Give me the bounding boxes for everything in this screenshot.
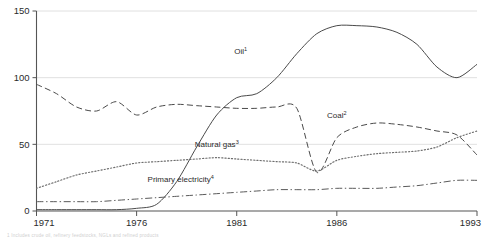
chart-footnote: 1 Includes crude oil, refinery feedstock… [7, 233, 159, 238]
series-label-coal: Coal2 [327, 110, 347, 120]
series-label-primary-electricity: Primary electricity4 [148, 174, 214, 184]
x-axis-labels: 19711976198119861993 [34, 217, 482, 228]
series-annotations: Oil1Coal2Natural gas3Primary electricity… [148, 46, 347, 184]
y-tick-label: 150 [14, 5, 30, 16]
chart-container: 050100150 19711976198119861993 Oil1Coal2… [0, 0, 484, 238]
x-tick-label: 1986 [326, 217, 347, 228]
series-label-footnote-marker: 4 [211, 174, 214, 180]
series-lines [37, 25, 478, 210]
series-label-oil: Oil1 [234, 46, 247, 56]
series-line-coal [37, 84, 478, 172]
series-line-natural-gas [37, 131, 478, 188]
x-tick-label: 1981 [226, 217, 247, 228]
line-chart: 050100150 19711976198119861993 Oil1Coal2… [0, 0, 484, 238]
y-tick-label: 50 [19, 139, 30, 150]
x-tick-label: 1993 [460, 217, 481, 228]
series-label-footnote-marker: 3 [236, 139, 239, 145]
y-tick-label: 0 [24, 205, 29, 216]
series-label-natural-gas: Natural gas3 [195, 139, 239, 149]
y-tick-label: 100 [14, 72, 30, 83]
x-axis-ticks [37, 211, 478, 216]
y-axis-labels: 050100150 [14, 5, 30, 216]
x-tick-label: 1976 [126, 217, 147, 228]
series-label-footnote-marker: 2 [344, 110, 347, 116]
x-tick-label: 1971 [34, 217, 55, 228]
gridlines [37, 11, 478, 211]
series-line-oil [37, 25, 478, 210]
series-label-footnote-marker: 1 [244, 46, 247, 52]
series-line-primary-electricity [37, 180, 478, 202]
y-axis-ticks [33, 11, 37, 211]
